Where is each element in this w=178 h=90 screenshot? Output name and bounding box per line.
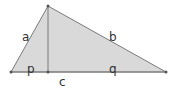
label-b: b	[109, 30, 117, 44]
label-c: c	[59, 75, 66, 89]
apex-point	[47, 5, 50, 8]
label-q: q	[109, 62, 117, 76]
label-a: a	[22, 30, 29, 44]
label-p: p	[27, 62, 35, 76]
left-vertex-point	[10, 71, 13, 74]
altitude-foot-point	[47, 71, 50, 74]
right-vertex-point	[165, 71, 168, 74]
triangle-diagram: a b p q c	[0, 0, 178, 90]
